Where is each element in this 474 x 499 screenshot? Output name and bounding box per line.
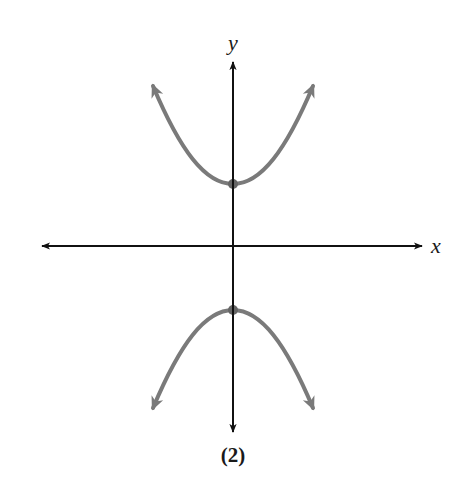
lower-branch-right bbox=[233, 310, 313, 408]
hyperbola-diagram: y x (2) bbox=[0, 0, 474, 499]
lower-branch-left bbox=[153, 310, 233, 408]
upper-branch-left bbox=[153, 86, 233, 184]
x-axis-label: x bbox=[430, 233, 441, 258]
y-axis-label: y bbox=[226, 30, 238, 55]
figure-caption: (2) bbox=[221, 443, 246, 467]
upper-branch-right bbox=[233, 86, 313, 184]
